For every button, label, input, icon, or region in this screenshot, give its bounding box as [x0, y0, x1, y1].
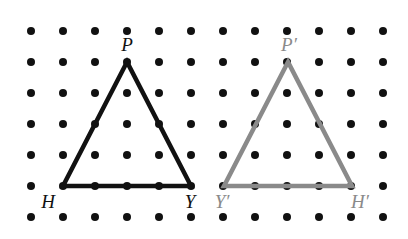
- grid-dot: [59, 89, 67, 97]
- grid-dot: [315, 27, 323, 35]
- label-p-prime: P′: [281, 35, 297, 54]
- grid-dot: [59, 27, 67, 35]
- geometry-figure: PHYP′Y′H′: [0, 0, 408, 239]
- grid-dot: [187, 58, 195, 66]
- grid-dot: [187, 151, 195, 159]
- grid-dot: [379, 151, 387, 159]
- grid-dot: [155, 89, 163, 97]
- grid-dot: [283, 213, 291, 221]
- grid-dot: [123, 120, 131, 128]
- grid-dot: [27, 151, 35, 159]
- grid-dot: [379, 89, 387, 97]
- grid-dot: [27, 58, 35, 66]
- grid-dot: [315, 151, 323, 159]
- grid-dot: [27, 182, 35, 190]
- grid-dot: [251, 27, 259, 35]
- grid-dot: [251, 89, 259, 97]
- grid-dot: [283, 151, 291, 159]
- grid-dot: [251, 58, 259, 66]
- triangles-group: [63, 62, 352, 186]
- grid-dot: [379, 58, 387, 66]
- grid-dot: [347, 89, 355, 97]
- grid-dot: [219, 151, 227, 159]
- grid-dot: [155, 213, 163, 221]
- grid-dot: [347, 120, 355, 128]
- label-p: P: [121, 35, 133, 54]
- grid-dot: [59, 58, 67, 66]
- grid-dot: [155, 58, 163, 66]
- grid-dot: [347, 27, 355, 35]
- grid-dot: [283, 89, 291, 97]
- grid-dot: [219, 27, 227, 35]
- label-y-prime: Y′: [215, 192, 230, 211]
- grid-dot: [187, 89, 195, 97]
- grid-dot: [27, 27, 35, 35]
- grid-dot: [379, 182, 387, 190]
- label-y: Y: [185, 192, 196, 211]
- grid-dot: [379, 27, 387, 35]
- grid-dot: [315, 58, 323, 66]
- grid-dot: [347, 213, 355, 221]
- grid-dot: [91, 151, 99, 159]
- grid-dot: [219, 120, 227, 128]
- grid-dot: [379, 213, 387, 221]
- grid-dot: [155, 27, 163, 35]
- grid-dot: [251, 151, 259, 159]
- grid-dot: [27, 213, 35, 221]
- grid-dot: [315, 213, 323, 221]
- dot-grid: [27, 27, 387, 221]
- grid-dot: [59, 213, 67, 221]
- grid-dot: [219, 89, 227, 97]
- grid-dot: [91, 27, 99, 35]
- grid-dot: [315, 89, 323, 97]
- grid-dot: [155, 151, 163, 159]
- label-h: H: [41, 192, 55, 211]
- grid-dot: [379, 120, 387, 128]
- grid-dot: [27, 89, 35, 97]
- grid-dot: [187, 120, 195, 128]
- grid-dot: [347, 151, 355, 159]
- grid-dot: [59, 120, 67, 128]
- label-h-prime: H′: [351, 192, 369, 211]
- grid-dot: [283, 120, 291, 128]
- grid-dot: [187, 27, 195, 35]
- figure-canvas: [0, 0, 408, 239]
- grid-dot: [251, 213, 259, 221]
- grid-dot: [219, 213, 227, 221]
- grid-dot: [123, 213, 131, 221]
- grid-dot: [123, 89, 131, 97]
- grid-dot: [59, 151, 67, 159]
- grid-dot: [123, 151, 131, 159]
- grid-dot: [347, 58, 355, 66]
- grid-dot: [91, 58, 99, 66]
- grid-dot: [219, 58, 227, 66]
- grid-dot: [187, 213, 195, 221]
- grid-dot: [91, 213, 99, 221]
- grid-dot: [27, 120, 35, 128]
- grid-dot: [91, 89, 99, 97]
